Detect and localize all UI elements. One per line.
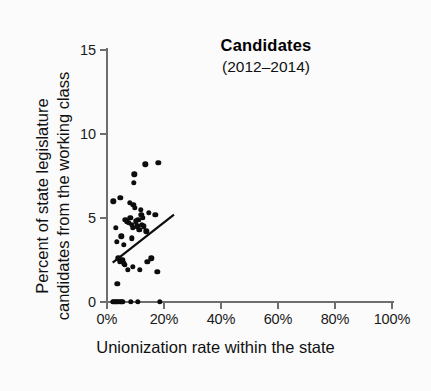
y-tick	[100, 301, 107, 303]
y-tick	[100, 217, 107, 219]
x-tick	[334, 302, 336, 309]
y-axis-title: Percent of state legislature candidates …	[32, 46, 74, 346]
trend-line	[107, 50, 392, 302]
x-tick-label: 40%	[207, 311, 236, 327]
x-tick-label: 60%	[264, 311, 293, 327]
x-tick	[277, 302, 279, 309]
x-tick	[163, 302, 165, 309]
y-tick-label: 0	[88, 294, 96, 310]
plot-area	[107, 50, 392, 302]
y-axis-title-line-1: Percent of state legislature	[32, 46, 53, 346]
x-tick-label: 80%	[321, 311, 350, 327]
scatter-point	[157, 299, 162, 304]
y-tick	[100, 133, 107, 135]
y-axis-title-line-2: candidates from the working class	[53, 46, 74, 346]
y-tick-label: 10	[80, 126, 96, 142]
x-tick	[391, 302, 393, 309]
chart-figure: Candidates (2012–2014) 0%20%40%60%80%100…	[0, 0, 431, 391]
y-tick-label: 5	[88, 210, 96, 226]
x-tick-label: 20%	[150, 311, 179, 327]
y-tick-label: 15	[80, 42, 96, 58]
scatter-point	[135, 299, 140, 304]
scatter-point	[128, 299, 133, 304]
x-tick-label: 0%	[97, 311, 118, 327]
x-tick	[106, 302, 108, 309]
x-tick	[220, 302, 222, 309]
x-tick-label: 100%	[374, 311, 411, 327]
scatter-point	[120, 299, 125, 304]
y-tick	[100, 49, 107, 51]
